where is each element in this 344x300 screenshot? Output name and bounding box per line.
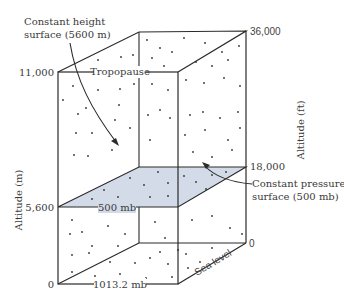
constant-height-label-line1: Constant height (24, 16, 105, 27)
left-axis-title: Altitude (m) (13, 169, 24, 231)
constant-height-arrowhead-icon (111, 138, 119, 146)
constant-height-label-line2: surface (5600 m) (24, 29, 111, 40)
constant-pressure-label-line1: Constant pressure (252, 178, 344, 189)
tropopause-label: Tropopause (90, 66, 150, 77)
right-tick-18000: 18,000 (250, 161, 285, 172)
left-tick-0: 0 (48, 279, 54, 290)
right-tick-36000: 36,000 (250, 26, 281, 37)
surface-pressure-label: 1013.2 mb (93, 279, 147, 290)
plane-pressure-label: 500 mb (98, 202, 136, 213)
constant-pressure-plane (58, 167, 246, 207)
left-tick-11000: 11,000 (19, 67, 54, 78)
constant-height-arrow (70, 43, 116, 142)
box-front-edges (58, 31, 246, 284)
left-tick-5600: 5,600 (25, 202, 54, 213)
constant-pressure-label-line2: surface (500 mb) (252, 191, 339, 202)
right-tick-0: 0 (249, 238, 255, 249)
atmosphere-box-diagram: Altitude (m) 11,000 5,600 0 36,000 18,00… (0, 0, 344, 300)
box-back-edges (58, 32, 246, 284)
sea-level-label: Sea level (192, 247, 233, 278)
right-axis-title: Altitude (ft) (295, 100, 306, 160)
